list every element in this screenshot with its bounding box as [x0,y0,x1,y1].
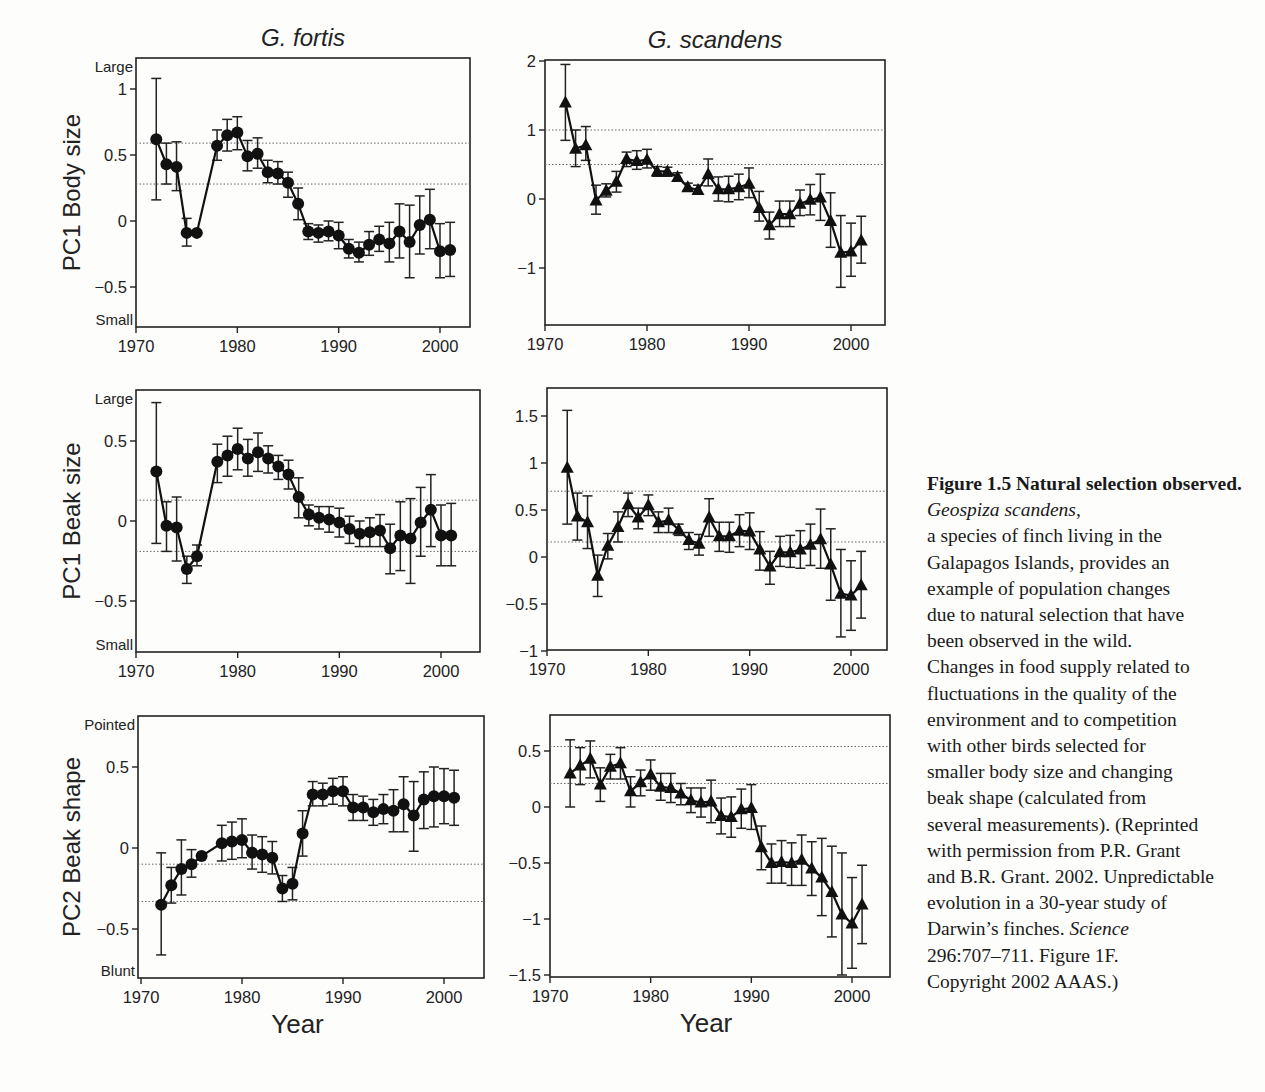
data-point [374,525,386,537]
y-tick-label: 2 [527,52,536,70]
data-point [186,858,198,870]
x-tick-label: 1990 [325,988,362,1006]
y-tick-label: 0.5 [515,501,538,519]
data-point [226,836,238,848]
axis-top-label: Large [95,58,133,75]
data-point [171,161,183,173]
data-point [634,775,647,787]
x-tick-label: 1990 [733,987,770,1005]
data-point [353,247,365,259]
x-axis-label: Year [271,1009,324,1039]
data-point [571,510,584,522]
y-tick-label: 0 [527,190,536,208]
data-point [434,245,446,257]
x-tick-label: 1970 [118,662,155,680]
data-point [733,524,746,536]
caption-line: example of population changes [927,578,1170,599]
data-point [216,837,228,849]
x-tick-label: 1980 [630,660,667,678]
x-tick-label: 2000 [833,335,870,353]
caption-journal: Science [1069,918,1129,939]
data-point [584,752,597,764]
axis-bottom-label: Small [95,311,133,328]
y-tick-label: −1 [517,259,536,277]
data-point [702,167,715,179]
y-tick-label: −0.5 [96,920,129,938]
data-point [196,850,208,862]
data-point [165,879,177,891]
data-point [753,201,766,213]
data-point [591,569,604,581]
y-tick-label: −1 [519,642,538,660]
data-point [601,539,614,551]
data-point [312,227,324,239]
data-point [242,453,254,465]
caption-line: Galapagos Islands, provides an [927,552,1170,573]
data-point [282,177,294,189]
y-tick-label: −0.5 [505,595,538,613]
plot-frame [550,715,890,977]
x-tick-label: 1990 [320,337,357,355]
data-point [824,558,837,570]
data-point [337,785,349,797]
data-point [753,542,766,554]
x-tick-label: 2000 [426,988,463,1006]
data-point [221,129,233,141]
data-point [181,563,193,575]
y-tick-label: −0.5 [94,592,127,610]
caption-line: environment and to competition [927,709,1177,730]
data-point [160,158,172,170]
data-point [155,899,167,911]
data-point [415,517,427,529]
y-tick-label: 0 [120,839,129,857]
panel-title: G. scandens [648,26,783,53]
y-tick-label: −0.5 [94,278,127,296]
x-tick-label: 1980 [224,988,261,1006]
y-tick-label: 1.5 [515,407,538,425]
data-point [191,227,203,239]
caption-line: fluctuations in the quality of the [927,683,1177,704]
data-point [388,805,400,817]
data-point [302,226,314,238]
x-tick-label: 2000 [833,660,870,678]
caption-line: smaller body size and changing [927,761,1173,782]
data-point [333,517,345,529]
plot-frame [547,388,887,650]
data-point [641,153,654,165]
data-point [313,512,325,524]
data-point [222,449,234,461]
data-point [824,214,837,226]
chart-panel-fortis-body: 197019801990200010.50−0.5LargeSmallG. fo… [58,24,470,355]
caption-line: beak shape (calculated from [927,787,1146,808]
data-point [266,852,278,864]
data-point [408,810,420,822]
y-tick-label: −0.5 [508,854,541,872]
data-point [252,148,264,160]
data-point [393,226,405,238]
x-tick-label: 1990 [321,662,358,680]
data-point [559,95,572,107]
data-point [775,855,788,867]
plot-frame [138,716,484,978]
caption-line: 296:707–711. Figure 1F. [927,945,1119,966]
data-point [405,533,417,545]
data-point [795,853,808,865]
x-tick-label: 1980 [219,337,256,355]
y-tick-label: 0 [118,512,127,530]
data-point [404,236,416,248]
data-point [246,847,258,859]
data-point [579,138,592,150]
data-point [384,542,396,554]
data-point [252,446,264,458]
data-point [292,198,304,210]
y-tick-label: 0.5 [518,742,541,760]
figure-canvas: 197019801990200010.50−0.5LargeSmallG. fo… [0,0,910,1092]
data-point [231,127,243,139]
data-point [444,244,456,256]
y-tick-label: 0 [532,798,541,816]
chart-panel-scandens-beak-size: 19701980199020001.510.50−0.5−1 [505,388,887,678]
data-point [211,456,223,468]
data-point [745,801,758,813]
data-point [354,528,366,540]
data-point [323,513,335,525]
